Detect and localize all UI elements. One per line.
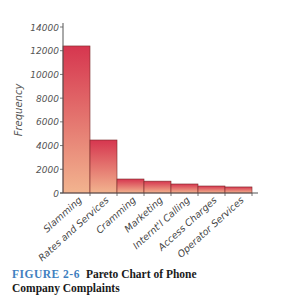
bar-3 bbox=[144, 181, 171, 193]
y-axis-ticks: 02000400060008000100001200014000 bbox=[30, 23, 63, 199]
y-axis-label: Frequency bbox=[13, 83, 24, 137]
y-tick-label: 10000 bbox=[30, 70, 59, 80]
figure-label: FIGURE 2-6 bbox=[12, 268, 80, 280]
bar-1 bbox=[90, 140, 117, 193]
bar-5 bbox=[198, 186, 225, 193]
pareto-chart: 02000400060008000100001200014000 Slammin… bbox=[0, 0, 281, 268]
y-tick-label: 6000 bbox=[36, 117, 59, 127]
bars bbox=[63, 46, 252, 193]
y-tick-label: 8000 bbox=[36, 94, 59, 104]
bar-2 bbox=[117, 179, 144, 193]
y-tick-label: 0 bbox=[53, 189, 59, 199]
bar-0 bbox=[63, 46, 90, 193]
bar-6 bbox=[225, 187, 252, 193]
y-tick-label: 2000 bbox=[36, 165, 59, 175]
y-tick-label: 12000 bbox=[30, 46, 59, 56]
y-tick-label: 14000 bbox=[30, 23, 59, 33]
bar-4 bbox=[171, 184, 198, 193]
y-tick-label: 4000 bbox=[36, 141, 59, 151]
figure-title-line1: Pareto Chart of Phone bbox=[86, 268, 197, 280]
x-axis-labels: SlammingRates and ServicesCrammingMarket… bbox=[36, 194, 246, 263]
figure-title-line2: Company Complaints bbox=[12, 282, 120, 294]
figure-caption: FIGURE 2-6Pareto Chart of Phone bbox=[12, 268, 197, 280]
